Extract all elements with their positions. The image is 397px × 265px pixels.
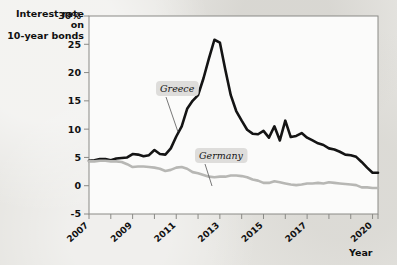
x-tick-label: 2015 xyxy=(240,220,265,244)
x-axis-ticks xyxy=(89,214,378,219)
y-axis-title-line2: 10-year bonds xyxy=(4,30,84,41)
x-tick-label: 2007 xyxy=(65,220,90,244)
x-axis-tick-labels: 2007200920112013201520172020 xyxy=(65,220,374,244)
y-tick-label: 20 xyxy=(68,67,82,78)
x-axis-title: Year xyxy=(349,247,373,258)
x-tick-label: 2011 xyxy=(152,220,177,244)
y-tick-label: -5 xyxy=(70,208,81,219)
series-label-germany: Germany xyxy=(199,150,244,161)
x-tick-label: 2009 xyxy=(109,220,134,244)
y-tick-label: 5 xyxy=(74,152,81,163)
series-label-greece: Greece xyxy=(160,83,195,94)
y-tick-label: 15 xyxy=(68,95,81,106)
y-tick-label: 10 xyxy=(68,124,82,135)
y-axis-title: Interest rate on 10-year bonds xyxy=(4,8,84,41)
y-axis-title-line1: Interest rate on xyxy=(4,8,84,30)
plot-background xyxy=(89,16,378,214)
x-tick-label: 2013 xyxy=(196,220,221,244)
y-axis-tick-labels: -5051015202530% xyxy=(58,10,81,219)
x-tick-label: 2020 xyxy=(349,220,374,244)
figure-panel: -5051015202530% 200720092011201320152017… xyxy=(0,0,397,265)
y-axis-ticks xyxy=(84,16,89,214)
y-tick-label: 0 xyxy=(74,180,81,191)
x-tick-label: 2017 xyxy=(283,220,308,244)
